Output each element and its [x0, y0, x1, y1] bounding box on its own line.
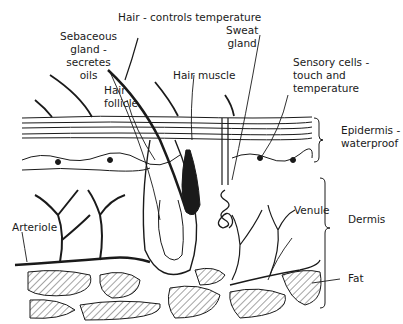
sensory-pointer [262, 95, 288, 156]
dermis-bracket [320, 178, 330, 308]
hair-muscle-pointer [191, 75, 194, 140]
fat-layer [28, 268, 321, 320]
label-sensory-cells: Sensory cells - touch and temperature [293, 56, 369, 95]
label-hair-muscle: Hair muscle [173, 69, 235, 82]
label-fat: Fat [348, 272, 364, 285]
sensory-cell [258, 156, 263, 161]
label-epidermis: Epidermis - waterproof [341, 124, 400, 150]
label-dermis: Dermis [348, 213, 385, 226]
skin-diagram: Hair - controls temperature Sebaceous gl… [0, 0, 403, 324]
epidermis-bracket [314, 118, 323, 162]
arteriole-main [15, 258, 150, 266]
label-sweat-gland: Sweat gland [226, 24, 258, 50]
epidermis-base [22, 153, 180, 165]
hair-bulb [182, 150, 200, 215]
label-venule: Venule [294, 204, 330, 217]
label-hair-follicle: Hair follicle [104, 84, 138, 110]
label-arteriole: Arteriole [12, 221, 57, 234]
skin-surface-line [22, 116, 312, 118]
arteriole-pointer [22, 232, 27, 262]
sweat-gland-coil [218, 190, 232, 228]
sweat-pointer [232, 35, 260, 180]
label-sebaceous-gland: Sebaceous gland - secretes oils [60, 30, 117, 82]
label-hair: Hair - controls temperature [118, 11, 261, 24]
